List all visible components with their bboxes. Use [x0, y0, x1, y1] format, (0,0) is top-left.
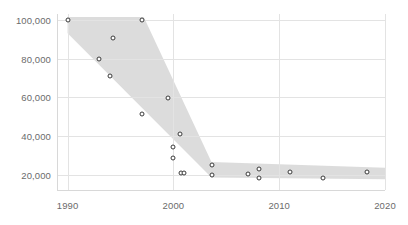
data-point — [107, 73, 112, 78]
data-point — [65, 17, 70, 22]
data-point — [111, 36, 116, 41]
gridline-vertical — [68, 14, 69, 190]
x-tick-label: 1990 — [57, 200, 79, 211]
data-point — [287, 169, 292, 174]
y-tick-label: 80,000 — [0, 53, 51, 64]
trend-band — [57, 14, 385, 190]
plot-area — [57, 14, 385, 190]
scatter-chart: 1990200020102020 20,00040,00060,00080,00… — [0, 0, 408, 225]
data-point — [209, 162, 214, 167]
gridline-vertical — [173, 14, 174, 190]
data-point — [257, 176, 262, 181]
x-axis-line — [57, 190, 385, 191]
x-tick-label: 2010 — [268, 200, 290, 211]
data-point — [257, 166, 262, 171]
data-point — [171, 156, 176, 161]
y-tick-label: 60,000 — [0, 92, 51, 103]
data-point — [139, 111, 144, 116]
gridline-horizontal — [57, 20, 385, 21]
data-point — [171, 144, 176, 149]
x-tick-label: 2000 — [163, 200, 185, 211]
data-point — [245, 171, 250, 176]
gridline-horizontal — [57, 59, 385, 60]
data-point — [365, 169, 370, 174]
gridline-horizontal — [57, 97, 385, 98]
y-tick-label: 40,000 — [0, 130, 51, 141]
gridline-vertical — [279, 14, 280, 190]
x-tick-label: 2020 — [374, 200, 396, 211]
data-point — [166, 96, 171, 101]
y-tick-label: 20,000 — [0, 169, 51, 180]
data-point — [320, 176, 325, 181]
data-point — [97, 56, 102, 61]
data-point — [139, 17, 144, 22]
data-point — [177, 131, 182, 136]
y-axis-line — [57, 14, 58, 190]
y-tick-label: 100,000 — [0, 14, 51, 25]
gridline-vertical — [385, 14, 386, 190]
data-point — [209, 172, 214, 177]
gridline-horizontal — [57, 136, 385, 137]
gridline-horizontal — [57, 175, 385, 176]
data-point — [182, 170, 187, 175]
